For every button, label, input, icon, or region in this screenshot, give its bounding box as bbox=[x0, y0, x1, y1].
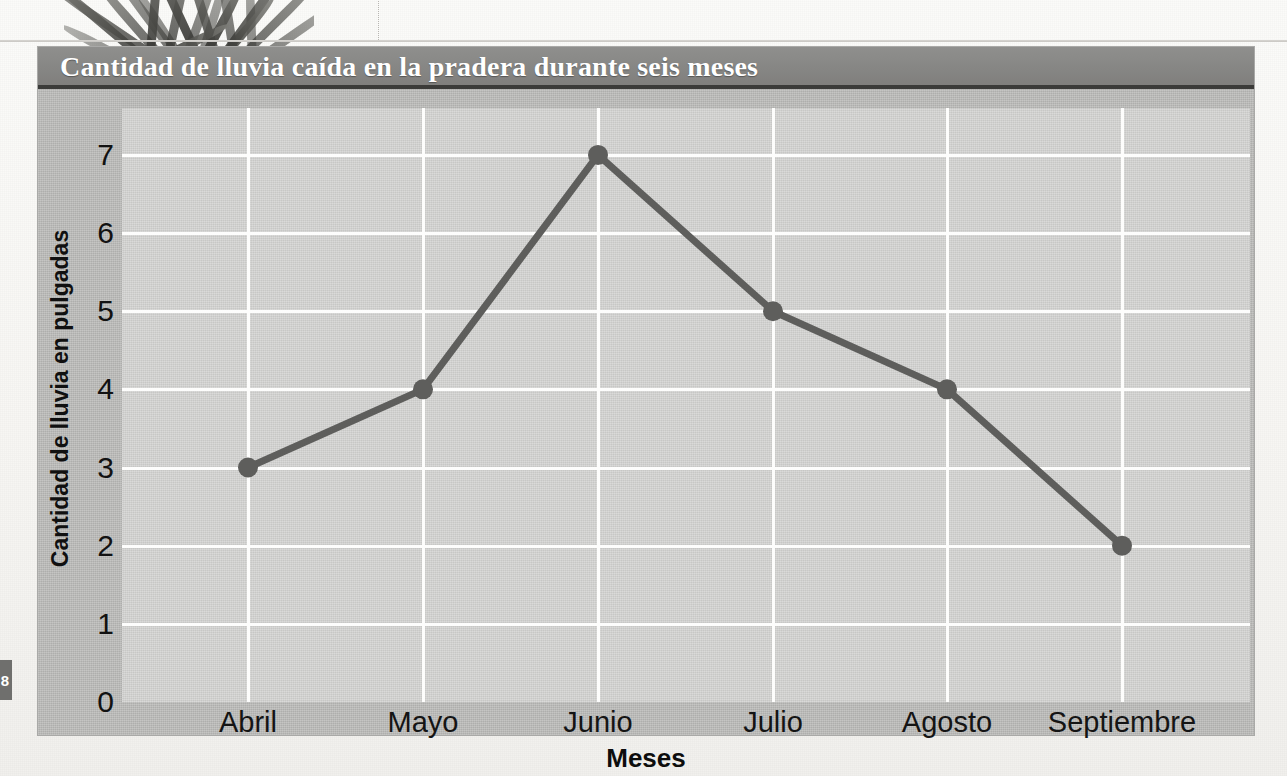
x-tick-label: Mayo bbox=[388, 706, 459, 739]
plot-wrapper: Cantidad de lluvia en pulgadas 01234567 … bbox=[38, 93, 1254, 735]
x-axis-ticks: AbrilMayoJunioJulioAgostoSeptiembre bbox=[122, 706, 1250, 746]
data-point-marker bbox=[588, 145, 608, 165]
chart-title-banner: Cantidad de lluvia caída en la pradera d… bbox=[38, 47, 1254, 89]
y-tick-label: 2 bbox=[54, 529, 114, 563]
y-tick-label: 4 bbox=[54, 372, 114, 406]
line-series bbox=[122, 108, 1250, 702]
y-tick-label: 7 bbox=[54, 138, 114, 172]
y-tick-label: 0 bbox=[54, 685, 114, 719]
x-tick-label: Abril bbox=[219, 706, 277, 739]
chart-title: Cantidad de lluvia caída en la pradera d… bbox=[60, 51, 758, 83]
cropped-body-text bbox=[400, 0, 1040, 10]
y-tick-label: 3 bbox=[54, 451, 114, 485]
plot-area bbox=[122, 108, 1250, 702]
chart-figure: Cantidad de lluvia caída en la pradera d… bbox=[38, 47, 1254, 735]
column-divider-rule bbox=[378, 0, 379, 42]
horizontal-rule bbox=[0, 40, 1287, 42]
y-tick-label: 5 bbox=[54, 294, 114, 328]
page-number-tab: 8 bbox=[0, 660, 12, 700]
y-tick-label: 1 bbox=[54, 607, 114, 641]
data-point-marker bbox=[1112, 536, 1132, 556]
data-line bbox=[248, 155, 1122, 546]
data-point-marker bbox=[763, 301, 783, 321]
data-point-marker bbox=[413, 379, 433, 399]
x-tick-label: Junio bbox=[563, 706, 632, 739]
y-tick-label: 6 bbox=[54, 216, 114, 250]
x-tick-label: Agosto bbox=[902, 706, 992, 739]
data-point-marker bbox=[238, 458, 258, 478]
x-tick-label: Septiembre bbox=[1048, 706, 1196, 739]
y-axis-ticks: 01234567 bbox=[48, 108, 114, 702]
page-number-label: 8 bbox=[1, 672, 9, 689]
x-tick-label: Julio bbox=[743, 706, 803, 739]
x-axis-title: Meses bbox=[38, 743, 1254, 774]
data-point-marker bbox=[937, 379, 957, 399]
